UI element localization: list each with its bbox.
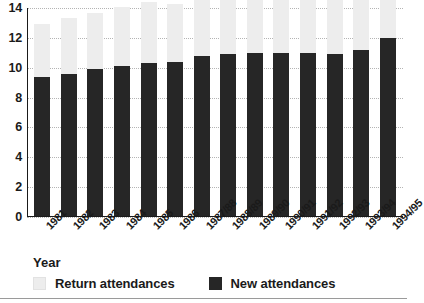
bar-segment-return-attendances[interactable] <box>327 0 343 54</box>
y-axis-line <box>27 8 28 217</box>
x-axis-tick-cell: 1990/91 <box>268 217 295 261</box>
bar-segment-return-attendances[interactable] <box>34 24 50 76</box>
legend-item-new-attendances[interactable]: New attendances <box>209 276 336 291</box>
x-axis-title: Year <box>33 255 60 270</box>
bar-segment-new-attendances[interactable] <box>61 74 77 217</box>
bar-stack <box>273 0 289 217</box>
bar-segment-return-attendances[interactable] <box>273 0 289 53</box>
bar-column[interactable] <box>162 8 189 217</box>
bar-segment-new-attendances[interactable] <box>380 38 396 217</box>
bar-segment-new-attendances[interactable] <box>220 54 236 217</box>
bar-series-group <box>27 8 403 217</box>
bar-segment-new-attendances[interactable] <box>300 53 316 217</box>
bar-segment-return-attendances[interactable] <box>141 2 157 63</box>
x-axis-tick-labels: 1981198219831984198519861987/881988/8919… <box>27 217 403 261</box>
y-axis-tick-label: 0 <box>15 210 22 224</box>
bar-segment-return-attendances[interactable] <box>61 18 77 73</box>
bar-stack <box>327 0 343 217</box>
bar-segment-return-attendances[interactable] <box>380 0 396 38</box>
bar-stack <box>87 13 103 218</box>
y-axis-tick-label: 12 <box>8 31 22 45</box>
bar-stack <box>141 2 157 217</box>
y-axis-tick-label: 4 <box>15 150 22 164</box>
bar-segment-return-attendances[interactable] <box>353 0 369 50</box>
bar-segment-return-attendances[interactable] <box>300 0 316 53</box>
bar-column[interactable] <box>56 8 83 217</box>
bar-segment-new-attendances[interactable] <box>87 69 103 217</box>
bar-stack <box>247 0 263 217</box>
bar-stack <box>194 0 210 217</box>
x-axis-tick-cell: 1994/95 <box>375 217 402 261</box>
legend-swatch-new-attendances <box>209 277 222 290</box>
bar-segment-return-attendances[interactable] <box>87 13 103 70</box>
bar-column[interactable] <box>321 8 348 217</box>
bar-segment-return-attendances[interactable] <box>114 7 130 67</box>
x-axis-tick-cell: 1985 <box>135 217 162 261</box>
y-axis-tick-label: 2 <box>15 180 22 194</box>
bar-segment-return-attendances[interactable] <box>247 0 263 53</box>
bar-column[interactable] <box>188 8 215 217</box>
legend-label-return-attendances: Return attendances <box>55 276 175 291</box>
bar-column[interactable] <box>215 8 242 217</box>
bar-segment-return-attendances[interactable] <box>167 4 183 62</box>
bar-segment-return-attendances[interactable] <box>220 0 236 54</box>
bar-stack <box>61 18 77 217</box>
bar-column[interactable] <box>29 8 56 217</box>
bar-column[interactable] <box>348 8 375 217</box>
bar-stack <box>353 0 369 217</box>
legend-item-return-attendances[interactable]: Return attendances <box>33 276 175 291</box>
x-axis-tick-cell: 1984 <box>109 217 136 261</box>
x-axis-tick-cell: 1988/89 <box>215 217 242 261</box>
y-axis-tick-label: 14 <box>8 1 22 15</box>
bar-segment-new-attendances[interactable] <box>327 54 343 217</box>
chart-legend: Return attendances New attendances <box>33 276 369 291</box>
x-axis-tick-cell: 1991/92 <box>295 217 322 261</box>
bar-segment-new-attendances[interactable] <box>167 62 183 217</box>
bar-stack <box>300 0 316 217</box>
bar-segment-new-attendances[interactable] <box>273 53 289 217</box>
x-axis-tick-cell: 1987/88 <box>188 217 215 261</box>
footer-divider <box>0 298 407 299</box>
bar-column[interactable] <box>135 8 162 217</box>
x-axis-tick-cell: 1989/90 <box>242 217 269 261</box>
bar-segment-return-attendances[interactable] <box>194 0 210 56</box>
y-axis-tick-label: 6 <box>15 120 22 134</box>
bar-stack <box>380 0 396 217</box>
bar-stack <box>167 4 183 217</box>
plot-area-wrapper <box>27 8 403 217</box>
bar-column[interactable] <box>268 8 295 217</box>
bar-stack <box>220 0 236 217</box>
bar-segment-new-attendances[interactable] <box>194 56 210 217</box>
plot-area <box>27 8 403 217</box>
bar-column[interactable] <box>109 8 136 217</box>
bar-stack <box>34 24 50 217</box>
x-axis-tick-cell: 1983 <box>82 217 109 261</box>
x-axis-tick-cell: 1986 <box>162 217 189 261</box>
bar-segment-new-attendances[interactable] <box>141 63 157 217</box>
bar-column[interactable] <box>295 8 322 217</box>
bar-segment-new-attendances[interactable] <box>114 66 130 217</box>
legend-label-new-attendances: New attendances <box>231 276 336 291</box>
bar-column[interactable] <box>242 8 269 217</box>
x-axis-tick-cell: 1992/93 <box>321 217 348 261</box>
bar-column[interactable] <box>82 8 109 217</box>
bar-stack <box>114 7 130 217</box>
y-axis-tick-label: 10 <box>8 61 22 75</box>
x-axis-tick-cell: 1993/94 <box>348 217 375 261</box>
bar-segment-new-attendances[interactable] <box>34 77 50 217</box>
bar-column[interactable] <box>375 8 402 217</box>
bar-segment-new-attendances[interactable] <box>353 50 369 217</box>
bar-segment-new-attendances[interactable] <box>247 53 263 217</box>
y-axis-tick-label: 8 <box>15 91 22 105</box>
legend-swatch-return-attendances <box>33 277 46 290</box>
y-axis-tick-labels: 14121086420 <box>0 8 22 217</box>
